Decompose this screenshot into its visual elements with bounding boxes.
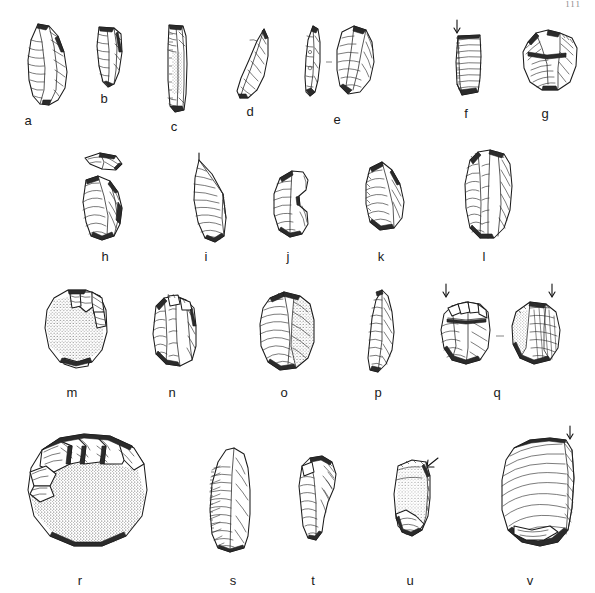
artifact-m: [34, 284, 122, 380]
artifact-label-i: i: [186, 249, 226, 264]
artifact-label-n: n: [152, 385, 192, 400]
artifact-a: [18, 20, 78, 112]
artifact-label-h: h: [85, 249, 125, 264]
artifact-label-c: c: [154, 119, 194, 134]
artifact-label-r: r: [60, 573, 100, 588]
artifact-label-a: a: [8, 113, 48, 128]
artifact-label-u: u: [390, 573, 430, 588]
artifact-p: [356, 286, 406, 382]
artifact-c: [160, 22, 196, 118]
artifact-t: [288, 448, 346, 552]
direction-arrow-u: [427, 458, 438, 467]
artifact-label-e: e: [317, 112, 357, 127]
artifact-n: [142, 290, 208, 380]
direction-arrow-q-left: [443, 284, 449, 297]
artifact-l: [454, 146, 524, 252]
artifact-label-d: d: [230, 104, 270, 119]
page-number: 111: [565, 0, 581, 9]
artifact-h: [74, 150, 144, 254]
artifact-label-g: g: [525, 106, 565, 121]
illustration-plate: 111 a: [0, 0, 595, 593]
artifact-k: [356, 158, 414, 246]
artifact-label-k: k: [361, 249, 401, 264]
artifact-j: [264, 166, 320, 244]
artifact-g: [514, 24, 586, 100]
artifact-q: [430, 280, 570, 380]
artifact-i: [182, 152, 238, 252]
artifact-label-q: q: [477, 385, 517, 400]
artifact-label-t: t: [293, 573, 333, 588]
artifact-label-p: p: [358, 385, 398, 400]
artifact-e: [296, 22, 386, 112]
artifact-o: [248, 288, 328, 382]
artifact-label-m: m: [52, 385, 92, 400]
artifact-v: [488, 422, 588, 564]
artifact-f: [444, 18, 494, 108]
artifact-label-s: s: [213, 573, 253, 588]
artifact-label-f: f: [446, 106, 486, 121]
artifact-b: [90, 24, 130, 98]
artifact-label-v: v: [510, 573, 550, 588]
artifact-label-o: o: [264, 385, 304, 400]
direction-arrow-q-right: [549, 284, 555, 297]
artifact-d: [230, 26, 278, 106]
artifact-label-j: j: [268, 249, 308, 264]
artifact-r: [14, 424, 160, 560]
artifact-s: [200, 444, 272, 562]
direction-arrow-f: [454, 20, 460, 33]
artifact-label-l: l: [464, 249, 504, 264]
artifact-label-b: b: [84, 91, 124, 106]
direction-arrow-v: [567, 426, 573, 439]
artifact-u: [382, 446, 452, 554]
